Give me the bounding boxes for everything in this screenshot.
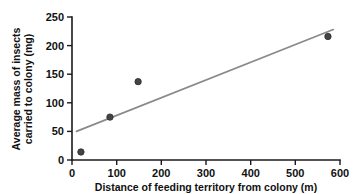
y-axis-ticks: 0 50 100 150 200 250	[46, 11, 72, 166]
x-axis-ticks: 0 100 200 300 400 500 600	[69, 160, 349, 179]
y-tick-label-100: 100	[46, 97, 64, 109]
data-point	[78, 149, 84, 155]
x-tick-label-600: 600	[331, 167, 349, 179]
y-axis-title-line2: carried to colony (mg)	[22, 34, 34, 144]
y-tick-label-200: 200	[46, 40, 64, 52]
x-tick-label-500: 500	[286, 167, 304, 179]
y-axis-title-line1: Average mass of insects	[10, 27, 22, 150]
x-tick-label-0: 0	[69, 167, 75, 179]
data-point	[107, 114, 113, 120]
trend-line	[76, 30, 333, 132]
data-points-group	[78, 33, 331, 155]
x-tick-label-200: 200	[152, 167, 170, 179]
data-point	[325, 33, 331, 39]
x-axis-title: Distance of feeding territory from colon…	[95, 181, 317, 193]
y-tick-label-0: 0	[58, 154, 64, 166]
chart-figure: 0 50 100 150 200 250 0 100 200 300 400 5…	[0, 0, 353, 194]
x-tick-label-400: 400	[242, 167, 260, 179]
scatter-plot: 0 50 100 150 200 250 0 100 200 300 400 5…	[0, 0, 353, 194]
y-tick-label-250: 250	[46, 11, 64, 23]
x-tick-label-100: 100	[108, 167, 126, 179]
y-tick-label-150: 150	[46, 68, 64, 80]
data-point	[135, 78, 141, 84]
y-tick-label-50: 50	[52, 125, 64, 137]
x-tick-label-300: 300	[197, 167, 215, 179]
